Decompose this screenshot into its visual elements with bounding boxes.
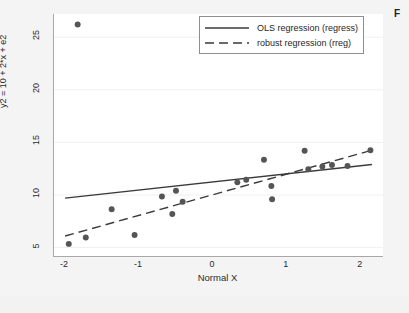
x-tick-label: 2 [349, 259, 371, 269]
data-point [234, 179, 240, 185]
data-point [173, 188, 179, 194]
x-tick-label: 1 [275, 259, 297, 269]
y-tick-label-text: 20 [31, 83, 41, 93]
data-point [159, 194, 165, 200]
data-point [305, 166, 311, 172]
data-point [329, 162, 335, 168]
legend-key-solid-line [204, 23, 250, 33]
legend-item-robust: robust regression (rreg) [204, 35, 358, 50]
y-tick-label: 10 [27, 188, 45, 198]
data-point [261, 157, 267, 163]
x-axis-title: Normal X [53, 272, 382, 283]
data-points-group [66, 22, 374, 247]
data-point [75, 22, 81, 28]
gridlines-group [54, 37, 383, 247]
y-tick-label-text: 5 [31, 243, 41, 248]
y-tick-label: 25 [27, 30, 45, 40]
data-point [269, 196, 275, 202]
y-tick-label-text: 10 [31, 188, 41, 198]
y-tick-label: 5 [27, 241, 45, 251]
data-point [243, 177, 249, 183]
data-point [66, 241, 72, 247]
data-point [345, 163, 351, 169]
data-point [302, 148, 308, 154]
legend: OLS regression (regress) robust regressi… [199, 16, 364, 54]
x-tick-label: -2 [53, 259, 75, 269]
data-point [109, 206, 115, 212]
y-tick-label-text: 25 [31, 30, 41, 40]
x-tick-label: -1 [127, 259, 149, 269]
x-tick-label: 0 [201, 259, 223, 269]
legend-key-dashed-line [204, 38, 250, 48]
data-point [83, 235, 89, 241]
y-axis-title: y2 = 10 + 2*x + e2 [0, 50, 14, 60]
y-tick-label-text: 15 [31, 135, 41, 145]
data-point [319, 164, 325, 170]
data-point [180, 199, 186, 205]
y-tick-label: 15 [27, 135, 45, 145]
regression-lines-group [65, 150, 372, 236]
data-point [132, 232, 138, 238]
corner-annotation: F [394, 8, 408, 19]
legend-item-ols: OLS regression (regress) [204, 20, 358, 35]
y-axis-title-text: y2 = 10 + 2*x + e2 [0, 92, 8, 108]
data-point [367, 147, 373, 153]
legend-label-robust: robust regression (rreg) [257, 38, 351, 48]
legend-label-ols: OLS regression (regress) [257, 23, 358, 33]
data-point [169, 211, 175, 217]
data-point [268, 183, 274, 189]
figure-container: F y2 = 10 + 2*x + e2 510152025 -2-1012 N… [0, 0, 409, 313]
y-tick-label: 20 [27, 83, 45, 93]
